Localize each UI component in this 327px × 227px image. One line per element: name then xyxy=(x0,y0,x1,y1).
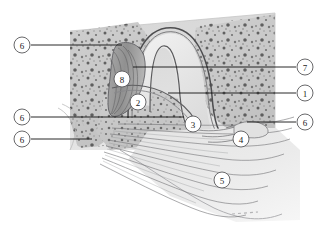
callout-number: 3 xyxy=(191,120,196,130)
callout-number: 5 xyxy=(220,176,225,186)
callout-number: 6 xyxy=(20,113,25,123)
illustration-body xyxy=(58,12,305,226)
callout-6-d[interactable]: 6 xyxy=(297,114,313,130)
callout-number: 8 xyxy=(120,75,125,85)
figure-page: 6 6 6 7 1 6 xyxy=(0,0,327,227)
callout-6-a[interactable]: 6 xyxy=(14,37,30,53)
callout-5[interactable]: 5 xyxy=(214,172,230,188)
callout-1[interactable]: 1 xyxy=(297,85,313,101)
callout-number: 1 xyxy=(303,89,308,99)
callout-6-c[interactable]: 6 xyxy=(14,131,30,147)
callout-number: 6 xyxy=(303,118,308,128)
muscle-body xyxy=(122,126,305,226)
callout-7[interactable]: 7 xyxy=(297,59,313,75)
callout-8[interactable]: 8 xyxy=(114,71,130,87)
callout-number: 7 xyxy=(303,63,308,73)
callout-3[interactable]: 3 xyxy=(185,116,201,132)
callout-2[interactable]: 2 xyxy=(130,94,146,110)
callout-number: 4 xyxy=(239,135,244,145)
callout-4[interactable]: 4 xyxy=(233,131,249,147)
callout-number: 2 xyxy=(136,98,141,108)
callout-6-b[interactable]: 6 xyxy=(14,109,30,125)
callout-number: 6 xyxy=(20,41,25,51)
callout-number: 6 xyxy=(20,135,25,145)
anatomical-illustration: 6 6 6 7 1 6 xyxy=(0,0,327,227)
